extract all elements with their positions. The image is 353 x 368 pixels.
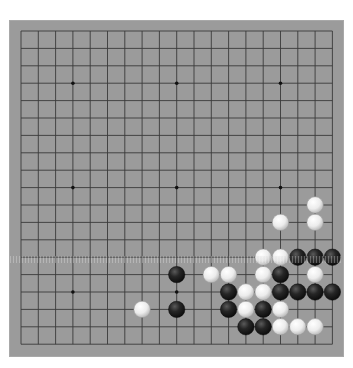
white-stone [203,266,219,282]
black-stone [290,249,306,265]
black-stone [324,284,340,300]
black-stone [307,249,323,265]
black-stone [290,284,306,300]
white-stone [307,319,323,335]
white-stone [307,214,323,230]
star-point [71,81,75,85]
board-grid[interactable] [10,21,343,356]
black-stone [272,266,288,282]
white-stone [255,266,271,282]
star-point [71,290,75,294]
white-stone [238,301,254,317]
white-stone [255,249,271,265]
black-stone [324,249,340,265]
star-point [279,81,283,85]
black-stone [255,301,271,317]
star-point [175,290,179,294]
star-point [71,186,75,190]
white-stone [290,319,306,335]
white-stone [272,214,288,230]
black-stone [272,284,288,300]
star-point [175,186,179,190]
black-stone [220,284,236,300]
white-stone [255,284,271,300]
black-stone [238,319,254,335]
stones-layer [134,197,341,335]
white-stone [307,266,323,282]
white-stone [238,284,254,300]
black-stone [169,266,185,282]
white-stone [220,266,236,282]
white-stone [272,249,288,265]
black-stone [255,319,271,335]
go-board[interactable] [10,21,343,356]
white-stone [134,301,150,317]
black-stone [220,301,236,317]
star-point [175,81,179,85]
white-stone [272,301,288,317]
black-stone [169,301,185,317]
black-stone [307,284,323,300]
white-stone [307,197,323,213]
star-point [279,186,283,190]
white-stone [272,319,288,335]
